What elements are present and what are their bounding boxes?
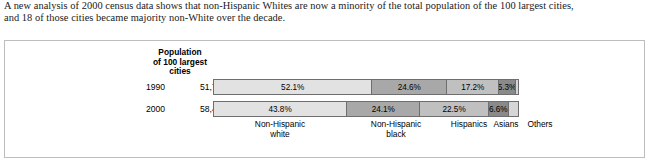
headline-paragraph: A new analysis of 2000 census data shows… — [4, 0, 648, 23]
headline-line-1: A new analysis of 2000 census data shows… — [4, 0, 648, 12]
row-year-label: 2000 — [133, 101, 165, 117]
bar-segment-hispanics: 22.5% — [420, 102, 488, 116]
figure-container: Population of 100 largest cities 1990 51… — [4, 40, 645, 158]
legend-label-non-hispanic-black: Non-Hispanic black — [350, 120, 442, 139]
legend-label-line-1: Others — [510, 120, 570, 130]
legend-label-line-2: black — [350, 130, 442, 140]
column-header-line-3: cities — [134, 67, 226, 77]
bar-segment-hispanics: 17.2% — [447, 80, 499, 94]
bar-segment-non-hispanic-white: 52.1% — [214, 80, 372, 94]
bar-segment-others — [509, 102, 518, 116]
stacked-bar-2000: 43.8% 24.1% 22.5% 6.6% — [213, 101, 519, 117]
bar-segment-non-hispanic-white: 43.8% — [214, 102, 347, 116]
column-header: Population of 100 largest cities — [134, 48, 226, 77]
bar-segment-non-hispanic-black: 24.1% — [347, 102, 420, 116]
headline-line-2: and 18 of those cities became majority n… — [4, 12, 648, 24]
bar-segment-asians: 6.6% — [489, 102, 509, 116]
bar-segment-others — [516, 80, 518, 94]
legend-label-line-2: white — [220, 130, 340, 140]
bar-segment-asians: 5.3% — [499, 80, 515, 94]
legend-label-others: Others — [510, 120, 570, 130]
legend-label-non-hispanic-white: Non-Hispanic white — [220, 120, 340, 139]
bar-segment-non-hispanic-black: 24.6% — [372, 80, 447, 94]
stacked-bar-1990: 52.1% 24.6% 17.2% 5.3% — [213, 79, 519, 95]
row-year-label: 1990 — [133, 79, 165, 95]
